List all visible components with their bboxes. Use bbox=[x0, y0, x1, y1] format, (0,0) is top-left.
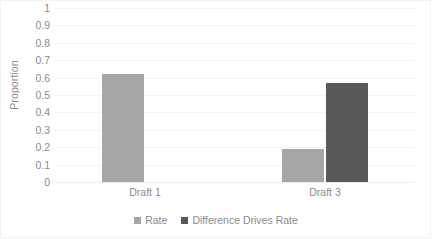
x-axis-category-labels: Draft 1Draft 3 bbox=[55, 186, 415, 202]
y-axis-tick-label: 0.6 bbox=[18, 73, 50, 83]
legend-label: Rate bbox=[145, 214, 167, 226]
y-axis-tick-labels: 10.90.80.70.60.50.40.30.20.10 bbox=[18, 8, 50, 182]
y-axis-tick-label: 1 bbox=[18, 3, 50, 13]
bar-difference-drives-rate-draft-3 bbox=[326, 83, 368, 182]
legend-swatch-icon bbox=[134, 217, 141, 224]
gridline bbox=[55, 25, 415, 26]
bar-rate-draft-3 bbox=[282, 149, 324, 182]
axis-baseline bbox=[55, 182, 415, 183]
y-axis-tick-label: 0 bbox=[18, 177, 50, 187]
bar-rate-draft-1 bbox=[102, 74, 144, 182]
y-axis-tick-label: 0.9 bbox=[18, 20, 50, 30]
y-axis-tick-label: 0.1 bbox=[18, 160, 50, 170]
y-axis-tick-label: 0.5 bbox=[18, 90, 50, 100]
gridline bbox=[55, 8, 415, 9]
legend-swatch-icon bbox=[181, 217, 188, 224]
y-axis-tick-label: 0.8 bbox=[18, 38, 50, 48]
x-axis-category-label: Draft 1 bbox=[55, 186, 235, 198]
y-axis-tick-label: 0.7 bbox=[18, 55, 50, 65]
plot-area bbox=[55, 8, 415, 182]
y-axis-tick-label: 0.2 bbox=[18, 142, 50, 152]
gridline bbox=[55, 43, 415, 44]
bar-chart: Proportion 10.90.80.70.60.50.40.30.20.10… bbox=[0, 0, 432, 239]
gridline bbox=[55, 60, 415, 61]
legend-label: Difference Drives Rate bbox=[192, 214, 297, 226]
x-axis-category-label: Draft 3 bbox=[235, 186, 415, 198]
legend-item[interactable]: Rate bbox=[134, 214, 167, 226]
legend-item[interactable]: Difference Drives Rate bbox=[181, 214, 297, 226]
y-axis-tick-label: 0.3 bbox=[18, 125, 50, 135]
chart-legend: RateDifference Drives Rate bbox=[0, 212, 432, 228]
y-axis-tick-label: 0.4 bbox=[18, 107, 50, 117]
